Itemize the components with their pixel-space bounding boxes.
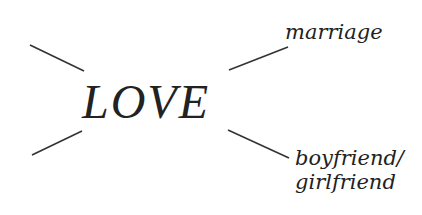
- line-top-left: [30, 45, 84, 71]
- branch-label-line-2: girlfriend: [295, 170, 404, 194]
- line-top-right: [229, 47, 288, 70]
- center-word: LOVE: [82, 78, 210, 126]
- line-bottom-right: [228, 130, 289, 158]
- mind-map-diagram: LOVE marriage boyfriend/ girlfriend: [0, 0, 422, 215]
- branch-label-marriage: marriage: [285, 22, 383, 43]
- branch-label-boyfriend-girlfriend: boyfriend/ girlfriend: [295, 146, 404, 194]
- branch-label-line-1: boyfriend/: [295, 146, 404, 170]
- line-bottom-left: [32, 131, 82, 155]
